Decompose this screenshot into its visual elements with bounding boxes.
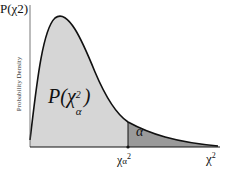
y-axis-label: Probability Density bbox=[15, 49, 23, 119]
region-label-sup: 2 bbox=[76, 89, 81, 100]
acceptance-region-label: P(χ2α) bbox=[48, 85, 90, 108]
region-label-sub: α bbox=[76, 105, 82, 117]
region-label-close: ) bbox=[84, 85, 91, 107]
crit-sup: 2 bbox=[127, 152, 131, 161]
critical-value-point bbox=[126, 145, 129, 148]
alpha-label: α bbox=[136, 124, 143, 140]
chi-square-chart bbox=[0, 0, 236, 174]
x-axis-label: χ2 bbox=[206, 151, 216, 167]
x-sup: 2 bbox=[212, 151, 216, 160]
region-label-text: P(χ bbox=[48, 85, 76, 107]
critical-value-label: χα2 bbox=[117, 152, 131, 168]
y-axis-title: P(χ2) bbox=[0, 1, 28, 17]
